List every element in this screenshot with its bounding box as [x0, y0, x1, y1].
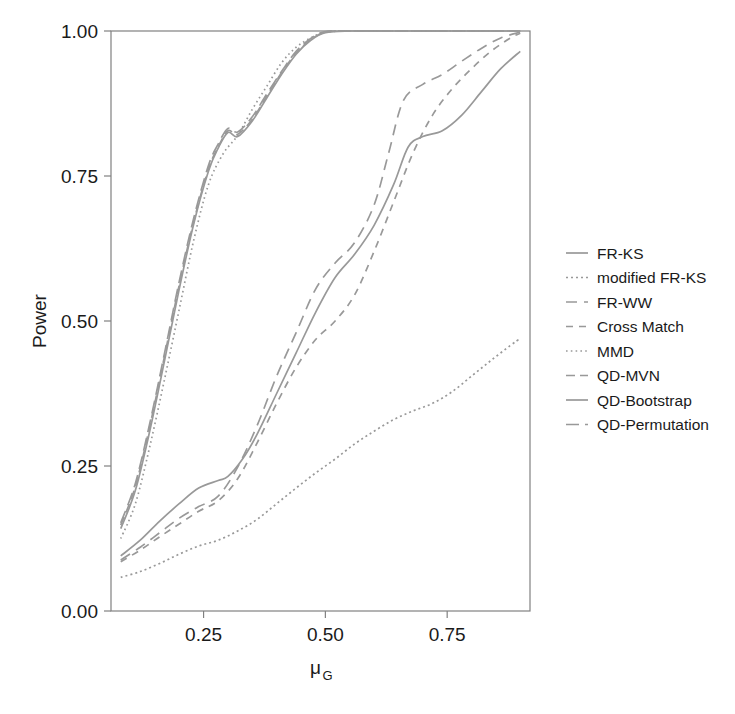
legend-label: FR-WW: [597, 294, 652, 311]
legend-label: QD-Permutation: [597, 416, 709, 433]
x-axis-title: μ: [310, 657, 321, 678]
plot-frame: [111, 31, 530, 611]
power-curve-figure: 0.000.250.500.751.000.250.500.75 PowerμG…: [0, 0, 735, 714]
legend-label: modified FR-KS: [597, 269, 706, 286]
series-line: [121, 31, 521, 529]
legend: FR-KSmodified FR-KSFR-WWCross MatchMMDQD…: [566, 245, 709, 434]
x-axis-title-subscript: G: [322, 668, 332, 683]
legend-label: QD-Bootstrap: [597, 392, 692, 409]
legend-label: FR-KS: [597, 245, 644, 262]
legend-item[interactable]: FR-KS: [566, 245, 644, 262]
chart-canvas: 0.000.250.500.751.000.250.500.75 PowerμG…: [0, 0, 735, 714]
y-tick-label: 0.50: [61, 311, 98, 332]
legend-item[interactable]: QD-Permutation: [566, 416, 709, 433]
y-tick-label: 1.00: [61, 21, 98, 42]
axis-ticks: 0.000.250.500.751.000.250.500.75: [61, 21, 466, 645]
series-line: [121, 31, 521, 523]
legend-item[interactable]: FR-WW: [566, 294, 652, 311]
legend-item[interactable]: modified FR-KS: [566, 269, 706, 286]
series-line: [121, 32, 521, 560]
legend-label: MMD: [597, 343, 634, 360]
series-line: [121, 33, 521, 561]
legend-label: QD-MVN: [597, 367, 660, 384]
series-line: [121, 338, 521, 577]
x-tick-label: 0.25: [185, 624, 222, 645]
y-tick-label: 0.25: [61, 456, 98, 477]
legend-item[interactable]: Cross Match: [566, 318, 684, 335]
y-axis-title: Power: [29, 293, 50, 348]
legend-item[interactable]: QD-Bootstrap: [566, 392, 692, 409]
series-lines: [121, 31, 521, 578]
legend-item[interactable]: MMD: [566, 343, 634, 360]
y-tick-label: 0.00: [61, 601, 98, 622]
legend-item[interactable]: QD-MVN: [566, 367, 660, 384]
x-tick-label: 0.50: [307, 624, 344, 645]
y-tick-label: 0.75: [61, 166, 98, 187]
legend-label: Cross Match: [597, 318, 684, 335]
x-tick-label: 0.75: [429, 624, 466, 645]
series-line: [121, 51, 521, 556]
